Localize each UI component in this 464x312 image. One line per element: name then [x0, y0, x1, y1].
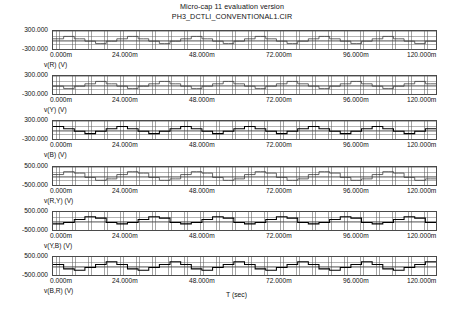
x-tick-label: 96.000m: [343, 141, 369, 148]
y-tick-label: -300.000: [4, 90, 48, 97]
title-line-1: Micro-cap 11 evaluation version: [0, 2, 464, 12]
x-tick-label: 0.000m: [50, 51, 72, 58]
chart-title: Micro-cap 11 evaluation version PH3_DCTL…: [0, 2, 464, 22]
series-label[interactable]: v(Y,B) (V): [44, 242, 72, 249]
waveform-trace: [53, 76, 436, 94]
x-tick-label: 120.000m: [407, 277, 436, 284]
y-tick-label: -500.000: [4, 271, 48, 278]
title-line-2: PH3_DCTLI_CONVENTIONAL1.CIR: [0, 12, 464, 22]
x-tick-label: 120.000m: [407, 96, 436, 103]
waveform-trace: [53, 121, 436, 139]
y-tick-label: -500.000: [4, 181, 48, 188]
x-tick-label: 0.000m: [50, 277, 72, 284]
y-tick-label: 500.000: [4, 162, 48, 169]
x-tick-label: 24.000m: [112, 96, 138, 103]
x-tick-label: 96.000m: [343, 187, 369, 194]
x-tick-label: 72.000m: [266, 277, 292, 284]
x-tick-label: 0.000m: [50, 187, 72, 194]
x-tick-label: 24.000m: [112, 51, 138, 58]
x-tick-label: 0.000m: [50, 141, 72, 148]
x-tick-label: 96.000m: [343, 277, 369, 284]
x-tick-label: 96.000m: [343, 96, 369, 103]
plot-area[interactable]: [52, 256, 437, 276]
x-tick-label: 120.000m: [407, 232, 436, 239]
x-tick-label: 48.000m: [189, 96, 215, 103]
plot-canvas: Micro-cap 11 evaluation version PH3_DCTL…: [0, 0, 464, 312]
series-label[interactable]: v(B,R) (V): [44, 287, 73, 294]
x-tick-label: 72.000m: [266, 232, 292, 239]
plot-area[interactable]: [52, 166, 437, 186]
x-tick-label: 120.000m: [407, 187, 436, 194]
x-tick-label: 0.000m: [50, 232, 72, 239]
x-tick-label: 96.000m: [343, 232, 369, 239]
x-tick-label: 96.000m: [343, 51, 369, 58]
x-tick-label: 72.000m: [266, 51, 292, 58]
waveform-trace: [53, 257, 436, 275]
series-label[interactable]: v(R,Y) (V): [44, 197, 73, 204]
x-tick-label: 72.000m: [266, 187, 292, 194]
x-tick-label: 24.000m: [112, 141, 138, 148]
waveform-trace: [53, 167, 436, 185]
y-tick-label: 300.000: [4, 116, 48, 123]
series-label[interactable]: v(R) (V): [44, 61, 67, 68]
x-tick-label: 48.000m: [189, 141, 215, 148]
x-tick-label: 48.000m: [189, 277, 215, 284]
plot-area[interactable]: [52, 211, 437, 231]
x-tick-label: 24.000m: [112, 232, 138, 239]
series-label[interactable]: v(Y) (V): [44, 106, 67, 113]
x-axis-title: T (sec): [226, 291, 247, 298]
waveform-trace: [53, 31, 436, 49]
plot-area[interactable]: [52, 75, 437, 95]
waveform-trace: [53, 212, 436, 230]
series-label[interactable]: v(B) (V): [44, 151, 67, 158]
y-tick-label: 500.000: [4, 252, 48, 259]
x-tick-label: 72.000m: [266, 141, 292, 148]
x-tick-label: 48.000m: [189, 187, 215, 194]
x-tick-label: 24.000m: [112, 277, 138, 284]
x-tick-label: 48.000m: [189, 51, 215, 58]
y-tick-label: 300.000: [4, 26, 48, 33]
y-tick-label: 300.000: [4, 71, 48, 78]
x-tick-label: 120.000m: [407, 51, 436, 58]
y-tick-label: -300.000: [4, 135, 48, 142]
x-tick-label: 0.000m: [50, 96, 72, 103]
x-tick-label: 48.000m: [189, 232, 215, 239]
x-tick-label: 24.000m: [112, 187, 138, 194]
x-tick-label: 120.000m: [407, 141, 436, 148]
y-tick-label: 500.000: [4, 207, 48, 214]
y-tick-label: -300.000: [4, 45, 48, 52]
x-tick-label: 72.000m: [266, 96, 292, 103]
plot-area[interactable]: [52, 30, 437, 50]
y-tick-label: -500.000: [4, 226, 48, 233]
plot-area[interactable]: [52, 120, 437, 140]
